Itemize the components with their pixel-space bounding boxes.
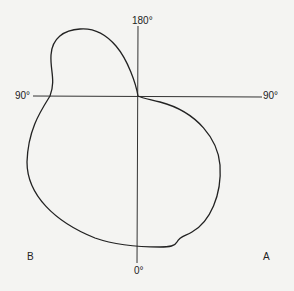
label-a: A bbox=[263, 252, 270, 262]
label-90-degrees-left: 90° bbox=[15, 91, 30, 101]
polar-plot bbox=[0, 0, 294, 291]
label-90-degrees-right: 90° bbox=[263, 91, 278, 101]
label-b: B bbox=[27, 252, 34, 262]
vertical-axis bbox=[137, 26, 138, 263]
label-0-degrees: 0° bbox=[134, 266, 144, 276]
pattern-curve bbox=[27, 29, 220, 247]
horizontal-axis bbox=[33, 96, 262, 97]
label-180-degrees: 180° bbox=[132, 16, 153, 26]
polar-diagram: 180° 90° 90° 0° B A bbox=[0, 0, 294, 291]
